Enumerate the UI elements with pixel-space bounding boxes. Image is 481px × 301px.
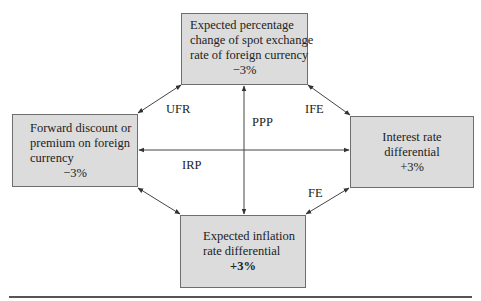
- ppp-label: PPP: [252, 115, 273, 129]
- inflation-differential-box: Expected inflation rate differential +3%: [180, 215, 306, 288]
- ife-label: IFE: [305, 102, 324, 116]
- forward-premium-box: Forward discount or premium on foreign c…: [12, 114, 138, 187]
- box-text-line: differential: [384, 145, 439, 160]
- horizontal-rule: [9, 296, 472, 298]
- spot-rate-change-box: Expected percentage change of spot excha…: [181, 13, 308, 85]
- box-text-line: rate differential: [203, 244, 305, 259]
- box-text-line: Expected percentage: [190, 18, 307, 33]
- box-text-line: currency: [30, 151, 137, 166]
- ufr-label: UFR: [166, 102, 190, 116]
- box-value: −3%: [190, 63, 307, 78]
- box-text-line: Expected inflation: [203, 229, 305, 244]
- box-text-line: Forward discount or: [30, 121, 137, 136]
- box-text-line: Interest rate: [382, 130, 441, 145]
- box-value: −3%: [30, 166, 137, 181]
- box-text-line: premium on foreign: [30, 136, 137, 151]
- box-text-line: rate of foreign currency: [190, 48, 307, 63]
- box-value: +3%: [400, 160, 424, 175]
- left-bottom-arrow: [138, 188, 180, 214]
- fe-label: FE: [308, 186, 323, 200]
- box-text-line: change of spot exchange: [190, 33, 307, 48]
- interest-rate-differential-box: Interest rate differential +3%: [350, 116, 474, 188]
- box-value: +3%: [203, 259, 305, 274]
- irp-label: IRP: [182, 158, 201, 172]
